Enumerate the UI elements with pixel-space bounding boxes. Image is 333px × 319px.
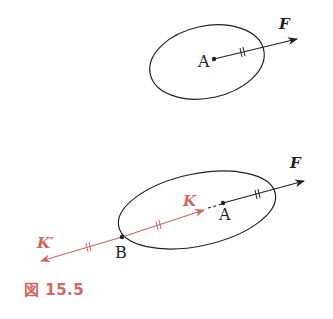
figure-caption: 図 15.5 — [24, 278, 84, 299]
bottom-panel: A B F K K′ — [36, 154, 304, 262]
force-f-label: F — [278, 15, 291, 33]
force-f-arrow — [223, 181, 304, 203]
rigid-body-ellipse — [111, 158, 282, 262]
point-a-label: A — [218, 205, 231, 224]
point-b-dot — [120, 235, 124, 239]
force-k-prime-label: K′ — [36, 234, 54, 252]
force-k-label: K — [182, 192, 197, 210]
force-f-arrow — [214, 39, 297, 59]
figure-diagram: A F A B F K K′ — [0, 0, 333, 319]
force-f-label: F — [289, 154, 302, 172]
top-panel: A F — [143, 15, 297, 110]
point-b-label: B — [115, 243, 127, 262]
force-k-arrow — [122, 210, 204, 237]
point-a-label: A — [197, 52, 210, 71]
